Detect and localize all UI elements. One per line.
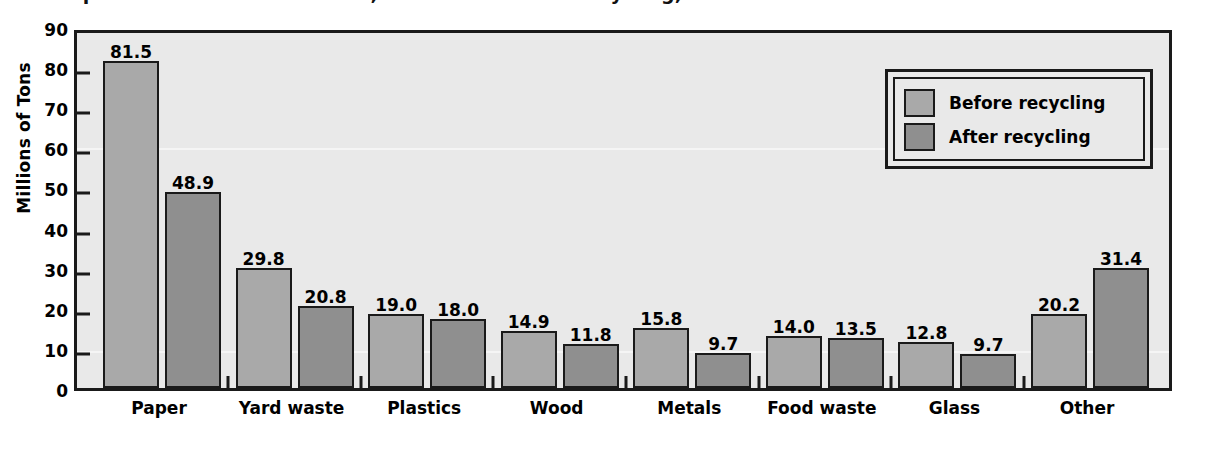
- x-axis-category-label: Other: [1060, 398, 1115, 418]
- bar-value-label: 20.8: [305, 289, 347, 306]
- y-axis-tick-label: 70: [6, 102, 68, 119]
- y-axis-tick-label: 50: [6, 182, 68, 199]
- y-axis-tick-label: 0: [6, 383, 68, 400]
- bar-after: [828, 338, 884, 388]
- bar-value-label: 13.5: [835, 321, 877, 338]
- bar-after: [695, 353, 751, 388]
- chart-title: Municipal Solid Waste Generated, Before …: [0, 0, 1000, 8]
- bar-value-label: 14.0: [773, 319, 815, 336]
- y-axis-tick-labels: 0102030405060708090: [6, 30, 68, 391]
- x-axis-category-label: Plastics: [387, 398, 461, 418]
- plot-area: 81.548.929.820.819.018.014.911.815.89.71…: [74, 30, 1172, 391]
- chart-screenshot: Municipal Solid Waste Generated, Before …: [0, 0, 1210, 452]
- bar-value-label: 18.0: [437, 302, 479, 319]
- bar-value-label: 81.5: [110, 44, 152, 61]
- bar-value-label: 15.8: [640, 311, 682, 328]
- bar-before: [501, 331, 557, 388]
- x-axis-category-label: Metals: [657, 398, 721, 418]
- bar-value-label: 20.2: [1038, 297, 1080, 314]
- legend-label: After recycling: [949, 127, 1091, 147]
- bar-before: [368, 314, 424, 388]
- x-axis-category-label: Glass: [929, 398, 981, 418]
- x-axis-category-labels: PaperYard wastePlasticsWoodMetalsFood wa…: [74, 398, 1172, 438]
- bar-before: [633, 328, 689, 388]
- bar-value-label: 9.7: [708, 336, 738, 353]
- bar-after: [298, 306, 354, 388]
- y-axis-tick-label: 30: [6, 262, 68, 279]
- y-axis-tick-label: 60: [6, 142, 68, 159]
- bar-before: [1031, 314, 1087, 388]
- legend-item-before-recycling: Before recycling: [904, 89, 1105, 117]
- bar-after: [563, 344, 619, 388]
- y-axis-tick-label: 40: [6, 222, 68, 239]
- legend-swatch-icon: [904, 89, 935, 117]
- legend-item-after-recycling: After recycling: [904, 123, 1091, 151]
- bar-value-label: 29.8: [243, 251, 285, 268]
- y-axis-tick-label: 80: [6, 62, 68, 79]
- legend-swatch-icon: [904, 123, 935, 151]
- x-axis-category-label: Paper: [131, 398, 187, 418]
- bar-before: [898, 342, 954, 388]
- x-axis-category-label: Food waste: [767, 398, 876, 418]
- y-axis-tick-label: 90: [6, 22, 68, 39]
- bar-after: [430, 319, 486, 388]
- bar-value-label: 19.0: [375, 297, 417, 314]
- legend-label: Before recycling: [949, 93, 1105, 113]
- bar-before: [103, 61, 159, 388]
- bar-after: [1093, 268, 1149, 388]
- bar-value-label: 48.9: [172, 175, 214, 192]
- bar-value-label: 11.8: [570, 327, 612, 344]
- bar-after: [165, 192, 221, 388]
- legend: Before recycling After recycling: [885, 69, 1153, 169]
- bar-value-label: 12.8: [905, 325, 947, 342]
- bar-before: [766, 336, 822, 388]
- bar-value-label: 14.9: [508, 314, 550, 331]
- bar-after: [960, 354, 1016, 388]
- x-axis-category-label: Wood: [530, 398, 584, 418]
- bar-value-label: 9.7: [973, 337, 1003, 354]
- bar-before: [236, 268, 292, 388]
- y-axis-tick-label: 20: [6, 302, 68, 319]
- x-axis-category-label: Yard waste: [239, 398, 345, 418]
- y-axis-tick-label: 10: [6, 342, 68, 359]
- bar-value-label: 31.4: [1100, 251, 1142, 268]
